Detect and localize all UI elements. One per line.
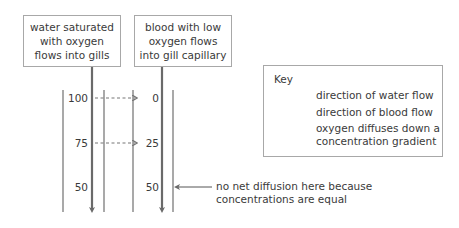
water-value-row2: 75 — [64, 137, 88, 149]
key-item-diffusion-line1: oxygen diffuses down a — [316, 122, 440, 135]
blood-value-row3: 50 — [135, 181, 159, 193]
annotation-line2: concentrations are equal — [216, 193, 372, 206]
water-value-row3: 50 — [64, 181, 88, 193]
water-label-box: water saturated with oxygen flows into g… — [23, 15, 121, 67]
equilibrium-annotation: no net diffusion here because concentrat… — [216, 180, 372, 206]
key-title: Key — [274, 73, 293, 85]
blood-label-box: blood with low oxygen flows into gill ca… — [134, 15, 232, 67]
water-value-row1: 100 — [64, 92, 88, 104]
annotation-line1: no net diffusion here because — [216, 180, 372, 193]
blood-value-row2: 25 — [135, 137, 159, 149]
key-item-diffusion-line2: concentration gradient — [316, 135, 440, 148]
key-item-water-flow: direction of water flow — [316, 89, 434, 102]
key-item-blood-flow: direction of blood flow — [316, 106, 433, 119]
blood-label-text: blood with low oxygen flows into gill ca… — [139, 20, 227, 62]
water-label-text: water saturated with oxygen flows into g… — [28, 20, 116, 62]
blood-value-row1: 0 — [135, 92, 159, 104]
key-item-diffusion: oxygen diffuses down a concentration gra… — [316, 122, 440, 148]
